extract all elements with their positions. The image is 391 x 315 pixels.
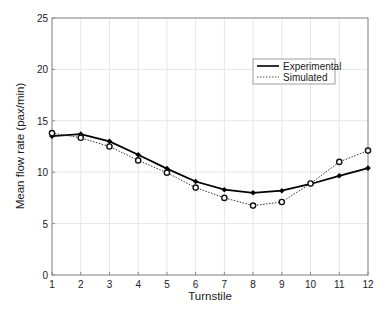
x-tick-label: 5 <box>164 279 170 290</box>
x-tick-label: 2 <box>78 279 84 290</box>
y-tick-label: 5 <box>42 219 48 230</box>
data-point-marker <box>222 195 227 200</box>
y-tick-label: 15 <box>37 116 49 127</box>
y-tick-label: 0 <box>42 270 48 281</box>
y-tick-label: 25 <box>37 13 49 24</box>
data-point-marker <box>136 158 141 163</box>
data-point-marker <box>164 170 169 175</box>
x-tick-label: 12 <box>362 279 374 290</box>
data-point-marker <box>107 144 112 149</box>
x-tick-label: 7 <box>222 279 228 290</box>
x-tick-label: 1 <box>49 279 55 290</box>
data-point-marker <box>279 199 284 204</box>
x-tick-label: 11 <box>334 279 345 290</box>
data-point-marker <box>337 159 342 164</box>
data-point-marker <box>193 185 198 190</box>
legend: Experimental Simulated <box>253 59 341 84</box>
x-tick-label: 4 <box>135 279 141 290</box>
x-tick-label: 3 <box>107 279 113 290</box>
y-tick-label: 20 <box>37 64 49 75</box>
line-chart: 0510152025 123456789101112 Turnstile Mea… <box>0 0 391 315</box>
data-point-marker <box>250 203 255 208</box>
x-tick-label: 10 <box>305 279 317 290</box>
x-axis-label: Turnstile <box>188 290 232 302</box>
data-point-marker <box>365 148 370 153</box>
data-point-marker <box>78 135 83 140</box>
y-tick-label: 10 <box>37 167 49 178</box>
x-tick-label: 9 <box>279 279 285 290</box>
x-tick-label: 8 <box>250 279 256 290</box>
x-tick-label: 6 <box>193 279 199 290</box>
legend-label-simulated: Simulated <box>283 72 327 83</box>
y-axis-label: Mean flow rate (pax/min) <box>14 83 26 210</box>
data-point-marker <box>49 131 54 136</box>
data-point-marker <box>308 181 313 186</box>
legend-label-experimental: Experimental <box>283 61 341 72</box>
